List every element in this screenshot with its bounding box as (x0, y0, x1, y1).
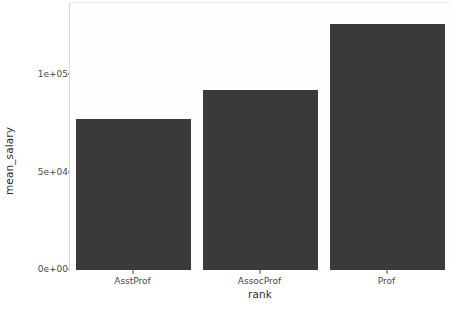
bar (330, 24, 444, 270)
x-tick-mark (259, 270, 260, 274)
x-tick-label: AsstProf (114, 276, 151, 286)
bar (76, 119, 190, 270)
plot-panel (69, 2, 451, 270)
y-tick-label: 0e+00 (22, 264, 68, 274)
x-tick-mark (132, 270, 133, 274)
x-tick-label: Prof (378, 276, 395, 286)
y-tick-label: 1e+05 (22, 69, 68, 79)
y-tick-label: 5e+04 (22, 167, 68, 177)
x-tick-label: AssocProf (238, 276, 281, 286)
y-axis-ticks: 0e+005e+041e+05 (18, 0, 68, 322)
bar (203, 90, 317, 270)
x-axis-title: rank (69, 288, 451, 300)
y-axis-title: mean_salary (0, 0, 18, 322)
bar-chart: mean_salary 0e+005e+041e+05 AsstProfAsso… (0, 0, 465, 322)
x-tick-mark (386, 270, 387, 274)
